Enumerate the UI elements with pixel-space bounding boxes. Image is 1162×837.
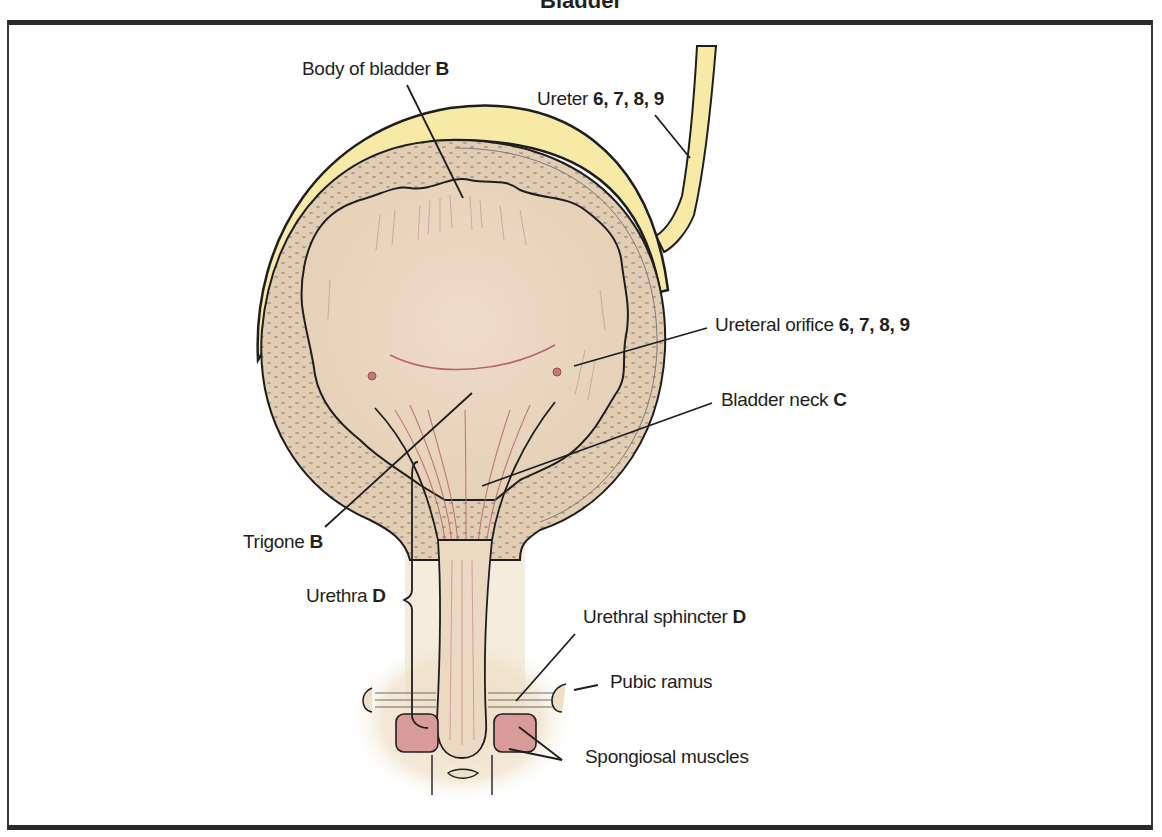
label-trigone: Trigone B	[243, 531, 323, 553]
leader-ureter	[655, 115, 690, 158]
label-urethra: Urethra D	[306, 585, 386, 607]
label-spongiosal-muscles: Spongiosal muscles	[585, 746, 749, 768]
left-spongiosal-muscle	[396, 714, 438, 752]
left-ureteral-orifice	[368, 372, 376, 380]
label-bladder-neck: Bladder neck C	[721, 389, 847, 411]
urethra-tube	[437, 540, 492, 758]
bladder-illustration	[0, 0, 1162, 837]
right-ureteral-orifice	[553, 368, 561, 376]
right-spongiosal-muscle	[494, 714, 536, 752]
label-ureter: Ureter 6, 7, 8, 9	[537, 88, 664, 110]
label-pubic-ramus: Pubic ramus	[610, 671, 712, 693]
ureter-tube	[656, 46, 716, 252]
label-ureteral-orifice: Ureteral orifice 6, 7, 8, 9	[715, 314, 910, 336]
leader-pubic-ramus	[574, 685, 598, 690]
label-body-of-bladder: Body of bladder B	[302, 58, 449, 80]
label-urethral-sphincter: Urethral sphincter D	[583, 606, 746, 628]
